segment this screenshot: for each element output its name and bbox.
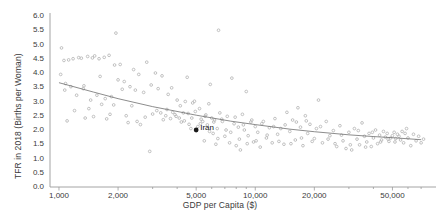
data-point — [167, 93, 170, 96]
data-point — [113, 64, 116, 67]
data-point — [123, 80, 126, 83]
data-point — [92, 115, 95, 118]
data-point — [142, 91, 145, 94]
data-point — [295, 121, 298, 124]
data-point — [237, 126, 240, 129]
data-point — [159, 112, 162, 115]
data-point — [339, 124, 342, 127]
data-point — [84, 117, 87, 120]
data-point — [378, 134, 381, 137]
data-point — [164, 114, 167, 117]
data-point — [348, 131, 351, 134]
y-tick-label: 5.5 — [18, 25, 44, 34]
data-point — [193, 100, 196, 103]
data-point — [405, 127, 408, 130]
data-point — [276, 133, 279, 136]
data-point — [364, 146, 367, 149]
data-point — [207, 102, 210, 105]
data-point — [284, 124, 287, 127]
data-point — [179, 104, 182, 107]
data-point — [157, 87, 160, 90]
y-tick-label: 5.0 — [18, 40, 44, 49]
data-point — [387, 138, 390, 141]
data-point — [151, 113, 154, 116]
data-point — [75, 94, 78, 97]
y-tick-label: 6.0 — [18, 11, 44, 20]
data-point — [291, 119, 294, 122]
data-point — [183, 120, 186, 123]
data-point — [288, 130, 291, 133]
data-point — [169, 117, 172, 120]
y-tick-label: 1.0 — [18, 154, 44, 163]
data-point — [356, 138, 359, 141]
y-tick-label: 0.0 — [18, 182, 44, 191]
data-point — [103, 56, 106, 59]
data-point — [235, 144, 238, 147]
y-tick-label: 4.0 — [18, 68, 44, 77]
data-point — [218, 112, 221, 115]
data-point — [391, 134, 394, 137]
data-point — [224, 135, 227, 138]
data-point — [238, 138, 241, 141]
y-tick-label: 0.5 — [18, 168, 44, 177]
data-point — [162, 118, 165, 121]
data-point — [311, 140, 314, 143]
data-point — [370, 145, 373, 148]
data-point — [109, 113, 112, 116]
data-point — [260, 122, 263, 125]
data-point — [402, 141, 405, 144]
data-point — [386, 132, 389, 135]
data-point — [274, 117, 277, 120]
data-point — [382, 130, 385, 133]
data-point — [188, 123, 191, 126]
data-point — [229, 131, 232, 134]
data-point — [108, 54, 111, 57]
data-point — [349, 143, 352, 146]
data-point — [100, 103, 103, 106]
data-point — [297, 106, 300, 109]
data-point — [345, 147, 348, 150]
data-point — [96, 94, 99, 97]
data-point — [60, 47, 63, 50]
y-tick-label: 4.5 — [18, 54, 44, 63]
data-point — [256, 131, 259, 134]
data-point — [125, 114, 128, 117]
data-point — [332, 129, 335, 132]
data-point — [361, 122, 364, 125]
y-tick-label: 1.5 — [18, 139, 44, 148]
data-point — [155, 109, 158, 112]
data-point — [203, 139, 206, 142]
x-tick-label: 2,000 — [78, 191, 158, 200]
data-point — [394, 141, 397, 144]
data-point — [353, 127, 356, 130]
data-point — [245, 90, 248, 93]
data-point — [150, 84, 153, 87]
data-point — [329, 134, 332, 137]
data-point — [239, 149, 242, 152]
data-point — [80, 57, 83, 60]
data-point — [357, 129, 360, 132]
data-point — [175, 115, 178, 118]
data-point — [180, 121, 183, 124]
data-point — [136, 120, 139, 123]
data-point — [190, 117, 193, 120]
data-point — [226, 115, 229, 118]
data-point — [228, 141, 231, 144]
data-point — [121, 88, 124, 91]
data-points-group — [59, 29, 425, 153]
data-point — [115, 32, 118, 35]
data-point — [335, 145, 338, 148]
data-point — [255, 139, 258, 142]
data-point — [67, 59, 70, 62]
data-point — [93, 55, 96, 58]
data-point — [88, 107, 91, 110]
data-point — [342, 139, 345, 142]
data-point — [420, 141, 423, 144]
data-point — [315, 127, 318, 130]
data-point — [350, 149, 353, 152]
data-point — [317, 99, 320, 102]
data-point — [290, 142, 293, 145]
data-point — [271, 141, 274, 144]
data-point — [265, 137, 268, 140]
data-point — [105, 118, 108, 121]
